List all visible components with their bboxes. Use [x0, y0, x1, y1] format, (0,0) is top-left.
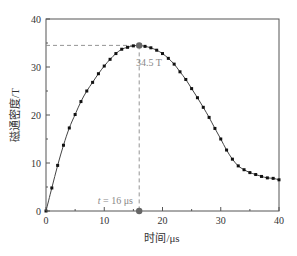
- data-point-marker: [278, 178, 281, 181]
- data-point-marker: [68, 126, 71, 129]
- data-point-marker: [79, 100, 82, 103]
- data-point-marker: [173, 63, 176, 66]
- time-marker-label: t = 16 μs: [98, 195, 133, 206]
- x-axis-label: 时间/μs: [144, 232, 179, 244]
- data-point-marker: [50, 186, 53, 189]
- time-value: = 16 μs: [101, 195, 134, 206]
- y-tick-label: 40: [31, 14, 41, 25]
- data-point-marker: [184, 78, 187, 81]
- data-point-marker: [243, 168, 246, 171]
- data-point-marker: [114, 52, 117, 55]
- data-point-marker: [231, 158, 234, 161]
- x-tick-label: 30: [216, 215, 226, 226]
- data-point-marker: [208, 116, 211, 119]
- data-point-marker: [144, 45, 147, 48]
- data-point-marker: [126, 46, 129, 49]
- data-point-marker: [149, 46, 152, 49]
- data-point-marker: [91, 81, 94, 84]
- y-tick-label: 0: [36, 206, 41, 217]
- x-tick-label: 20: [158, 215, 168, 226]
- data-point-marker: [219, 138, 222, 141]
- data-point-marker: [109, 58, 112, 61]
- data-point-marker: [260, 175, 263, 178]
- data-point-marker: [167, 57, 170, 60]
- data-point-marker: [196, 96, 199, 99]
- data-point-marker: [132, 44, 135, 47]
- data-point-marker: [225, 149, 228, 152]
- x-tick-label: 10: [99, 215, 109, 226]
- y-axis-label: 磁通密度/T: [8, 88, 21, 142]
- data-point-marker: [272, 177, 275, 180]
- data-point-marker: [74, 113, 77, 116]
- flux-density-chart: 010203040010203040 34.5 T t = 16 μs 时间/μ…: [0, 0, 297, 256]
- data-point-marker: [161, 52, 164, 55]
- data-point-marker: [56, 164, 59, 167]
- data-point-marker: [103, 65, 106, 68]
- data-point-marker: [97, 72, 100, 75]
- data-point-marker: [85, 90, 88, 93]
- plot-border: [46, 19, 279, 211]
- peak-marker: [136, 42, 142, 48]
- x-tick-label: 40: [274, 215, 284, 226]
- y-tick-label: 30: [31, 62, 41, 73]
- data-point-marker: [190, 87, 193, 90]
- y-tick-label: 10: [31, 158, 41, 169]
- data-point-marker: [248, 171, 251, 174]
- data-series: [45, 42, 281, 214]
- data-point-marker: [266, 176, 269, 179]
- data-point-marker: [254, 173, 257, 176]
- peak-label: 34.5 T: [136, 57, 162, 68]
- x-tick-label: 0: [44, 215, 49, 226]
- time-marker: [136, 208, 142, 214]
- data-point-marker: [178, 70, 181, 73]
- data-point-marker: [62, 144, 65, 147]
- data-point-marker: [155, 49, 158, 52]
- plot-frame: [46, 19, 279, 211]
- series-line: [46, 45, 279, 211]
- data-point-marker: [237, 164, 240, 167]
- data-point-marker: [202, 106, 205, 109]
- data-point-marker: [120, 48, 123, 51]
- y-tick-label: 20: [31, 110, 41, 121]
- data-point-marker: [213, 127, 216, 130]
- reference-lines: [46, 45, 139, 211]
